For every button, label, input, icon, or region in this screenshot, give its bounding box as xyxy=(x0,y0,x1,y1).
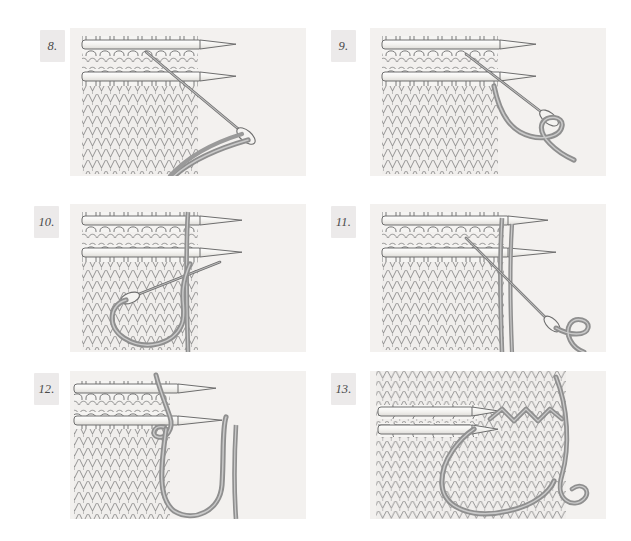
panel-art-step-11 xyxy=(370,204,606,352)
step-number-8: 8. xyxy=(40,30,65,62)
step-number-9: 9. xyxy=(331,30,356,62)
step-number-11: 11. xyxy=(331,206,356,238)
edge-yarn-11 xyxy=(501,218,503,352)
panel-art-step-12 xyxy=(70,371,306,519)
knitting-illustration-10 xyxy=(70,204,306,352)
panel-step-12 xyxy=(70,371,306,519)
panel-art-step-9 xyxy=(370,28,606,176)
instruction-sheet: 8. xyxy=(0,0,631,541)
knitting-illustration-9 xyxy=(370,28,606,176)
panel-art-step-10 xyxy=(70,204,306,352)
knitting-illustration-13 xyxy=(370,371,606,519)
working-yarn-11 xyxy=(556,320,588,352)
knitting-illustration-12 xyxy=(70,371,306,519)
edge-yarn-11b xyxy=(511,224,513,352)
step-number-10: 10. xyxy=(34,206,59,238)
panel-step-13 xyxy=(370,371,606,519)
panel-step-10 xyxy=(70,204,306,352)
knitting-illustration-8 xyxy=(70,28,306,176)
step-number-12: 12. xyxy=(34,373,59,405)
step-number-13: 13. xyxy=(331,373,356,405)
panel-step-9 xyxy=(370,28,606,176)
panel-art-step-8 xyxy=(70,28,306,176)
panel-art-step-13 xyxy=(370,371,606,519)
panel-step-11 xyxy=(370,204,606,352)
knitting-illustration-11 xyxy=(370,204,606,352)
working-yarn-9 xyxy=(494,86,574,160)
panel-step-8 xyxy=(70,28,306,176)
